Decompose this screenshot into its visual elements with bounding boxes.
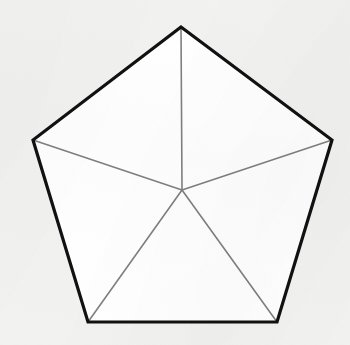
- figure-stage: [0, 0, 350, 345]
- spoke-to-apex: [181, 27, 182, 190]
- pentagon-diagram: [0, 0, 350, 345]
